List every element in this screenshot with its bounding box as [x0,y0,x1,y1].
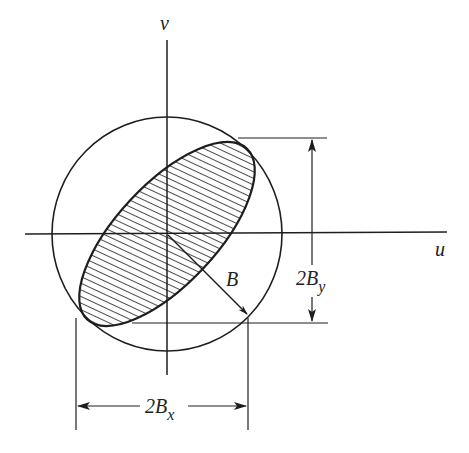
hatched-ellipse [40,110,300,354]
height-dimension-label: 2By [296,267,326,296]
width-label-main: 2B [145,395,167,417]
height-label-main: 2B [296,267,318,289]
radius-label: B [226,268,238,290]
u-axis [25,232,447,234]
v-axis-label: v [160,12,169,34]
width-dimension-label: 2Bx [145,395,174,423]
width-label-subscript: x [166,406,174,423]
height-label-subscript: y [316,278,326,296]
u-axis-label: u [435,238,445,260]
ellipse-in-circle-diagram: v u B 2By 2Bx [0,0,469,453]
